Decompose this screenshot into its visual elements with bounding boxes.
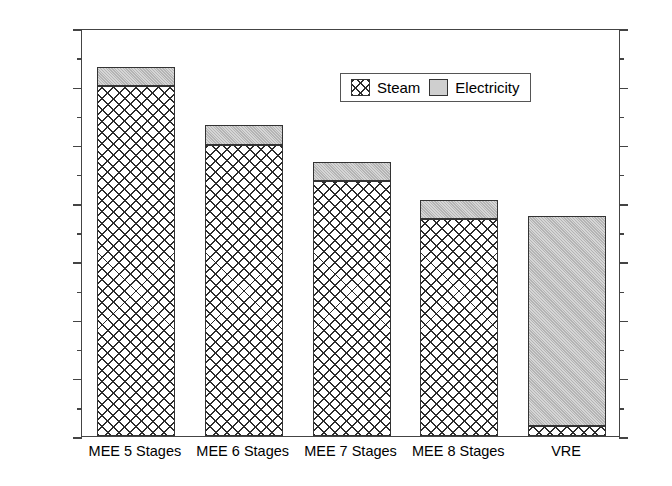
- bar-segment-steam-1: [97, 86, 175, 436]
- major-tick-left-600: [73, 88, 82, 90]
- minor-tick-right-50: [619, 408, 624, 410]
- major-tick-right-700: [619, 29, 628, 31]
- minor-tick-left-450: [77, 175, 82, 177]
- legend-item-steam: Steam: [351, 79, 420, 96]
- major-tick-left-300: [73, 262, 82, 264]
- crosshatch-swatch: [351, 79, 370, 96]
- x-tick-label-5: VRE: [512, 443, 620, 459]
- minor-tick-left-250: [77, 292, 82, 294]
- bar-segment-steam-5: [528, 426, 606, 436]
- minor-tick-right-350: [619, 233, 624, 235]
- legend-label-steam: Steam: [377, 79, 420, 96]
- bar-segment-electricity-4: [420, 200, 498, 219]
- major-tick-right-400: [619, 204, 628, 206]
- major-tick-right-500: [619, 146, 628, 148]
- bar-5: [528, 216, 606, 436]
- legend-label-electricity: Electricity: [455, 79, 519, 96]
- plot-area: MJ per MT Water Removed Steam Electricit…: [81, 29, 620, 437]
- figure: MJ per MT Water Removed Steam Electricit…: [0, 0, 672, 486]
- bar-segment-electricity-1: [97, 67, 175, 86]
- major-tick-left-200: [73, 321, 82, 323]
- bar-segment-steam-4: [420, 219, 498, 436]
- minor-tick-left-650: [77, 58, 82, 60]
- major-tick-right-600: [619, 88, 628, 90]
- minor-tick-right-150: [619, 350, 624, 352]
- bar-segment-electricity-3: [313, 162, 391, 181]
- major-tick-right-300: [619, 262, 628, 264]
- bar-segment-steam-2: [205, 145, 283, 436]
- minor-tick-left-550: [77, 117, 82, 119]
- major-tick-left-400: [73, 204, 82, 206]
- bar-segment-steam-3: [313, 181, 391, 436]
- bar-1: [97, 67, 175, 436]
- major-tick-right-200: [619, 321, 628, 323]
- bar-segment-electricity-2: [205, 125, 283, 144]
- chart-legend: Steam Electricity: [340, 73, 531, 102]
- x-tick-label-1: MEE 5 Stages: [81, 443, 189, 459]
- legend-item-electricity: Electricity: [429, 79, 519, 96]
- minor-tick-right-550: [619, 117, 624, 119]
- bar-2: [205, 125, 283, 436]
- minor-tick-right-650: [619, 58, 624, 60]
- bar-3: [313, 162, 391, 436]
- gray-swatch: [429, 79, 448, 96]
- minor-tick-left-150: [77, 350, 82, 352]
- major-tick-right-0: [619, 437, 628, 439]
- major-tick-left-700: [73, 29, 82, 31]
- x-tick-label-3: MEE 7 Stages: [297, 443, 405, 459]
- minor-tick-left-350: [77, 233, 82, 235]
- minor-tick-left-50: [77, 408, 82, 410]
- x-tick-label-2: MEE 6 Stages: [189, 443, 297, 459]
- bar-4: [420, 200, 498, 436]
- major-tick-right-100: [619, 379, 628, 381]
- minor-tick-right-450: [619, 175, 624, 177]
- bar-segment-electricity-5: [528, 216, 606, 426]
- minor-tick-right-250: [619, 292, 624, 294]
- major-tick-left-0: [73, 437, 82, 439]
- major-tick-left-500: [73, 146, 82, 148]
- major-tick-left-100: [73, 379, 82, 381]
- x-tick-label-4: MEE 8 Stages: [404, 443, 512, 459]
